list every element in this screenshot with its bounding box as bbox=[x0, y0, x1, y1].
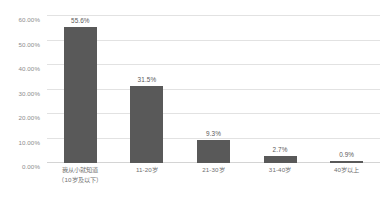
bar-slot: 55.6% bbox=[47, 16, 114, 163]
bar-slot: 31.5% bbox=[114, 16, 181, 163]
x-axis-category-label: 21-30岁 bbox=[180, 165, 247, 184]
bar-value-label: 9.3% bbox=[206, 130, 221, 137]
bar[interactable] bbox=[64, 27, 97, 163]
bar[interactable] bbox=[264, 156, 297, 163]
bar[interactable] bbox=[197, 140, 230, 163]
bar-series: 55.6%31.5%9.3%2.7%0.9% bbox=[47, 16, 380, 163]
x-axis-category-label-line: （10岁及以下） bbox=[47, 175, 114, 185]
bar-slot: 2.7% bbox=[247, 16, 314, 163]
x-axis-category-labels: 我从小就知道（10岁及以下）11-20岁21-30岁31-40岁40岁以上 bbox=[47, 165, 380, 184]
x-axis-category-label: 11-20岁 bbox=[114, 165, 181, 184]
x-axis-category-label-line: 31-40岁 bbox=[247, 165, 314, 175]
y-axis-tick-labels: 0.00%10.00%20.00%30.00%40.00%50.00%60.00… bbox=[0, 16, 45, 163]
x-axis-category-label: 我从小就知道（10岁及以下） bbox=[47, 165, 114, 184]
x-axis-category-label-line: 21-30岁 bbox=[180, 165, 247, 175]
x-axis-category-label: 31-40岁 bbox=[247, 165, 314, 184]
plot-area: 55.6%31.5%9.3%2.7%0.9% bbox=[47, 16, 380, 163]
bar-slot: 9.3% bbox=[180, 16, 247, 163]
x-axis-category-label-line: 我从小就知道 bbox=[47, 165, 114, 175]
x-axis-category-label-line: 40岁以上 bbox=[313, 165, 380, 175]
bar[interactable] bbox=[330, 161, 363, 163]
bar-value-label: 31.5% bbox=[138, 76, 157, 83]
bar-value-label: 2.7% bbox=[273, 146, 288, 153]
bar-slot: 0.9% bbox=[313, 16, 380, 163]
x-axis-category-label-line: 11-20岁 bbox=[114, 165, 181, 175]
bar-value-label: 0.9% bbox=[339, 151, 354, 158]
x-axis-category-label: 40岁以上 bbox=[313, 165, 380, 184]
bar[interactable] bbox=[130, 86, 163, 163]
bar-chart: 0.00%10.00%20.00%30.00%40.00%50.00%60.00… bbox=[0, 0, 390, 198]
bar-value-label: 55.6% bbox=[71, 17, 90, 24]
